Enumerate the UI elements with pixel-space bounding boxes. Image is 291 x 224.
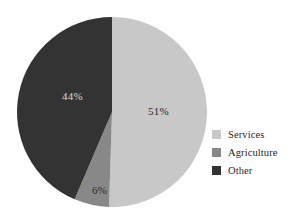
pie-chart-plot-area: 51% 6% 44% (0, 0, 224, 224)
legend-label-services: Services (228, 129, 264, 140)
legend-item-agriculture[interactable]: Agriculture (212, 144, 291, 161)
pie-slice-services[interactable] (109, 17, 207, 207)
pie-slice-group (17, 17, 207, 207)
legend-swatch-icon-other (212, 166, 221, 175)
legend-item-other[interactable]: Other (212, 162, 291, 179)
legend-label-other: Other (228, 165, 252, 176)
legend-label-agriculture: Agriculture (228, 147, 278, 158)
pie-chart-figure: 51% 6% 44% Services Agriculture Other (0, 0, 291, 224)
legend-swatch-icon-services (212, 130, 221, 139)
chart-legend: Services Agriculture Other (212, 126, 291, 180)
legend-item-services[interactable]: Services (212, 126, 291, 143)
legend-swatch-icon-agriculture (212, 148, 221, 157)
pie-chart-svg (0, 0, 224, 224)
